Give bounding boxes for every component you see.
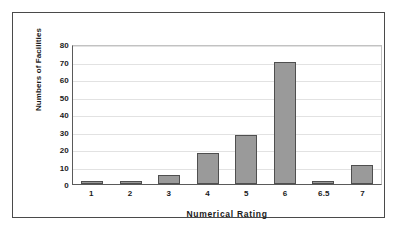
y-axis-tick-label: 40 <box>43 111 69 120</box>
x-axis-tick-labels: 1234566.57 <box>72 189 382 198</box>
x-axis-tick-label: 6.5 <box>305 189 344 198</box>
x-axis-tick-label: 5 <box>227 189 266 198</box>
bar-slot <box>150 46 189 184</box>
bar-slot <box>304 46 343 184</box>
bar <box>312 181 334 185</box>
bar <box>81 181 103 185</box>
y-axis-tick-label: 80 <box>43 41 69 50</box>
bar <box>120 181 142 185</box>
bar-slot <box>112 46 151 184</box>
y-axis-tick-label: 70 <box>43 58 69 67</box>
figure-border: Numbers of Facilities 01020304050607080 … <box>12 12 385 218</box>
x-axis-title: Numerical Rating <box>72 209 382 219</box>
bar <box>158 175 180 184</box>
bar-slot <box>189 46 228 184</box>
bar <box>351 165 373 184</box>
y-axis-tick-label: 50 <box>43 93 69 102</box>
bar-slot <box>227 46 266 184</box>
x-axis-tick-label: 3 <box>150 189 189 198</box>
bar-slot <box>266 46 305 184</box>
y-axis-tick-label: 60 <box>43 76 69 85</box>
bar-slot <box>343 46 382 184</box>
bar <box>274 62 296 185</box>
x-axis-tick-label: 7 <box>343 189 382 198</box>
y-axis-title: Numbers of Facilities <box>34 5 43 135</box>
bar-slot <box>73 46 112 184</box>
x-axis-tick-label: 4 <box>188 189 227 198</box>
y-axis-tick-label: 10 <box>43 163 69 172</box>
chart-figure: Numbers of Facilities 01020304050607080 … <box>0 0 402 232</box>
bar <box>197 153 219 185</box>
x-axis-tick-label: 6 <box>266 189 305 198</box>
y-axis-tick-labels: 01020304050607080 <box>43 45 69 185</box>
x-axis-tick-label: 2 <box>111 189 150 198</box>
bar-series <box>73 46 381 184</box>
x-axis-tick-label: 1 <box>72 189 111 198</box>
bar <box>235 135 257 184</box>
plot-area <box>72 45 382 185</box>
y-axis-tick-label: 20 <box>43 146 69 155</box>
y-axis-tick-label: 30 <box>43 128 69 137</box>
y-axis-tick-label: 0 <box>43 181 69 190</box>
